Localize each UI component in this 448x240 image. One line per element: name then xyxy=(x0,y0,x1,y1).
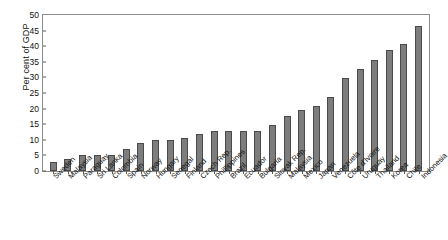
x-label-slot: Finland xyxy=(177,174,192,238)
x-label-slot: Brazil xyxy=(221,174,236,238)
x-label-slot: Uruguay xyxy=(353,174,368,238)
y-tick-label: 15 xyxy=(30,120,43,129)
bar-slot xyxy=(177,15,192,171)
x-label-slot: Japan xyxy=(309,174,324,238)
x-label-slot: Côte d'Ivoire xyxy=(339,174,354,238)
x-label-slot: Indonesia xyxy=(412,174,427,238)
x-label-slot: Chile xyxy=(398,174,413,238)
x-label-slot: Mexico xyxy=(295,174,310,238)
bar-slot xyxy=(397,15,412,171)
x-axis-category-labels: SwedenMalaysiaParaguaySri LankaColombiaS… xyxy=(42,174,430,238)
bar-slot xyxy=(192,15,207,171)
x-label-slot: Sweden xyxy=(45,174,60,238)
bar-slot xyxy=(280,15,295,171)
x-label-slot: Colombia xyxy=(104,174,119,238)
bar-slot xyxy=(148,15,163,171)
x-label-slot: Venezuela xyxy=(324,174,339,238)
x-label-slot: Malaysia xyxy=(60,174,75,238)
bar-slot xyxy=(382,15,397,171)
y-tick-label: 20 xyxy=(30,104,43,113)
x-label-slot: Malaysia xyxy=(280,174,295,238)
y-tick-label: 40 xyxy=(30,42,43,51)
bar-slot xyxy=(411,15,426,171)
bar-slot xyxy=(90,15,105,171)
bar-slot xyxy=(251,15,266,171)
y-tick-label: 5 xyxy=(34,151,43,160)
x-label-slot: Spain xyxy=(118,174,133,238)
bar-slot xyxy=(265,15,280,171)
x-label-slot: Bulgaria xyxy=(251,174,266,238)
x-label-slot: Paraguay xyxy=(74,174,89,238)
x-label-slot: Ecuador xyxy=(236,174,251,238)
x-label-slot: Korea xyxy=(383,174,398,238)
x-label-slot: Thailand xyxy=(368,174,383,238)
bar-slot xyxy=(134,15,149,171)
y-tick-label: 45 xyxy=(30,26,43,35)
x-label-slot: Sri Lanka xyxy=(89,174,104,238)
bar-slot xyxy=(104,15,119,171)
bar-slot xyxy=(75,15,90,171)
y-tick-label: 30 xyxy=(30,73,43,82)
bar-slot xyxy=(163,15,178,171)
bar-slot xyxy=(353,15,368,171)
bar xyxy=(400,44,407,171)
bar-slot xyxy=(309,15,324,171)
x-label-slot: Slovak Rep. xyxy=(265,174,280,238)
y-tick-label: 35 xyxy=(30,58,43,67)
bar-slot xyxy=(61,15,76,171)
x-label-slot: Phillippines xyxy=(207,174,222,238)
x-label-slot: Norway xyxy=(133,174,148,238)
bar-slot xyxy=(324,15,339,171)
bar xyxy=(386,50,393,171)
bar-slot xyxy=(338,15,353,171)
bar xyxy=(415,26,422,171)
y-tick-label: 10 xyxy=(30,136,43,145)
bar-slot xyxy=(207,15,222,171)
bar-slot xyxy=(46,15,61,171)
x-label-slot: Senegal xyxy=(163,174,178,238)
bar-slot xyxy=(119,15,134,171)
x-label-slot: Hungary xyxy=(148,174,163,238)
y-tick-label: 25 xyxy=(30,89,43,98)
y-tick-label: 50 xyxy=(30,11,43,20)
x-label-slot: Czech Rep. xyxy=(192,174,207,238)
